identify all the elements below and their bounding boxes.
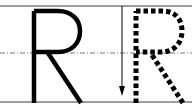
trace-r-bowl <box>136 11 182 52</box>
down-arrow-icon <box>119 6 125 96</box>
trace-letter-r <box>136 11 183 103</box>
model-r-bowl <box>34 11 80 52</box>
worksheet-canvas <box>0 0 192 110</box>
model-r-leg <box>48 53 81 103</box>
model-letter-r <box>34 11 81 103</box>
handwriting-guide-lines <box>0 6 192 102</box>
letter-tracing-worksheet: R R <box>0 0 192 110</box>
trace-r-leg <box>152 55 183 103</box>
